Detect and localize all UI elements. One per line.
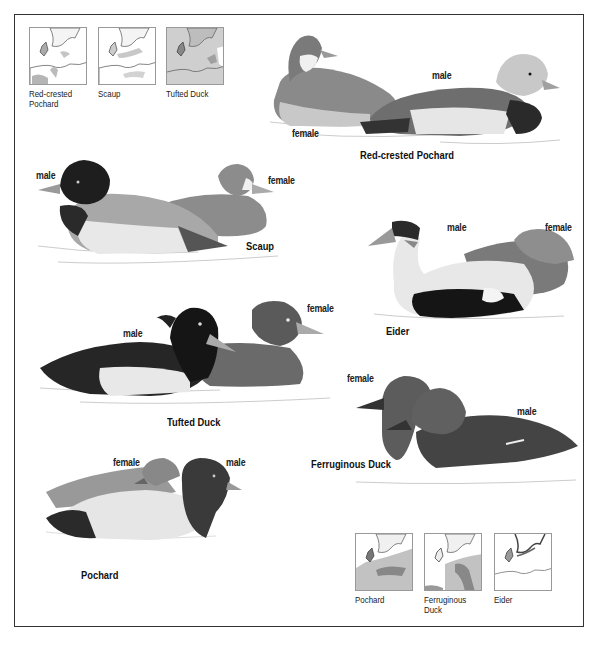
- male-label: male: [123, 328, 142, 339]
- map-label: Eider: [494, 595, 552, 605]
- male-label: male: [432, 70, 451, 81]
- male-label: male: [447, 222, 466, 233]
- female-label: female: [113, 457, 140, 468]
- tufted-duck-illustration: [40, 298, 340, 408]
- male-label: male: [36, 170, 55, 181]
- map-label: Tufted Duck: [166, 89, 224, 99]
- species-name: Pochard: [81, 569, 118, 581]
- female-label: female: [347, 373, 374, 384]
- species-name: Red-crested Pochard: [360, 149, 454, 161]
- female-label: female: [545, 222, 572, 233]
- female-label: female: [292, 128, 319, 139]
- species-name: Tufted Duck: [167, 416, 220, 428]
- map-label: Pochard: [355, 595, 413, 605]
- species-name: Ferruginous Duck: [311, 458, 391, 470]
- species-name: Scaup: [246, 240, 274, 252]
- male-label: male: [226, 457, 245, 468]
- species-name: Eider: [386, 325, 409, 337]
- map-label: Red-crested Pochard: [29, 89, 87, 109]
- map-red-crested-pochard: [29, 27, 87, 85]
- female-label: female: [307, 303, 334, 314]
- pochard-illustration: [46, 452, 246, 552]
- map-label: Scaup: [98, 89, 156, 99]
- map-ferruginous-duck: [424, 533, 482, 591]
- ferruginous-duck-illustration: [356, 372, 586, 492]
- map-tufted-duck: [166, 27, 224, 85]
- male-label: male: [517, 406, 536, 417]
- map-eider: [494, 533, 552, 591]
- map-label: Ferruginous Duck: [424, 595, 468, 615]
- female-label: female: [268, 175, 295, 186]
- map-scaup: [98, 27, 156, 85]
- map-pochard: [355, 533, 413, 591]
